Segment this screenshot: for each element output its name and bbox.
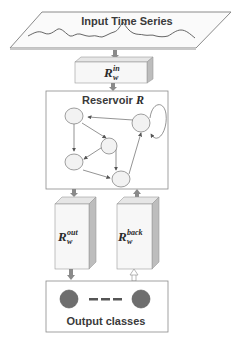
input-weights-symbol: R <box>103 65 113 80</box>
feedback-weights-symbol: R <box>117 229 127 244</box>
reservoir-node <box>132 114 150 132</box>
reservoir-node <box>65 108 83 124</box>
output-weights-block: R out w <box>55 197 96 269</box>
reservoir-node <box>101 138 117 154</box>
input-weights-sub: w <box>113 73 119 82</box>
reservoir-block: Reservoir R <box>46 91 168 189</box>
output-class-node <box>132 290 150 308</box>
feedback-weights-sup: back <box>127 228 143 237</box>
output-class-node <box>60 290 78 308</box>
reservoir-node <box>112 171 130 187</box>
reservoir-symbol: R <box>135 93 144 107</box>
reservoir-computing-diagram: Input Time Series R in w Reservoir R <box>0 0 240 347</box>
output-classes-label: Output classes <box>67 315 146 327</box>
output-weights-sup: out <box>67 228 78 237</box>
output-weights-symbol: R <box>57 229 67 244</box>
output-classes-block: Output classes <box>46 281 168 332</box>
input-weights-sup: in <box>113 64 120 73</box>
feedback-weights-sub: w <box>127 237 133 246</box>
feedback-weights-block: R back w <box>117 197 159 269</box>
input-time-series-label: Input Time Series <box>81 15 173 27</box>
reservoir-node <box>65 154 83 170</box>
output-weights-sub: w <box>67 237 73 246</box>
ellipsis-dashes <box>89 298 122 301</box>
reservoir-label: Reservoir <box>82 94 133 106</box>
input-time-series-plane: Input Time Series <box>10 12 231 50</box>
input-weights-block: R in w <box>75 57 153 83</box>
